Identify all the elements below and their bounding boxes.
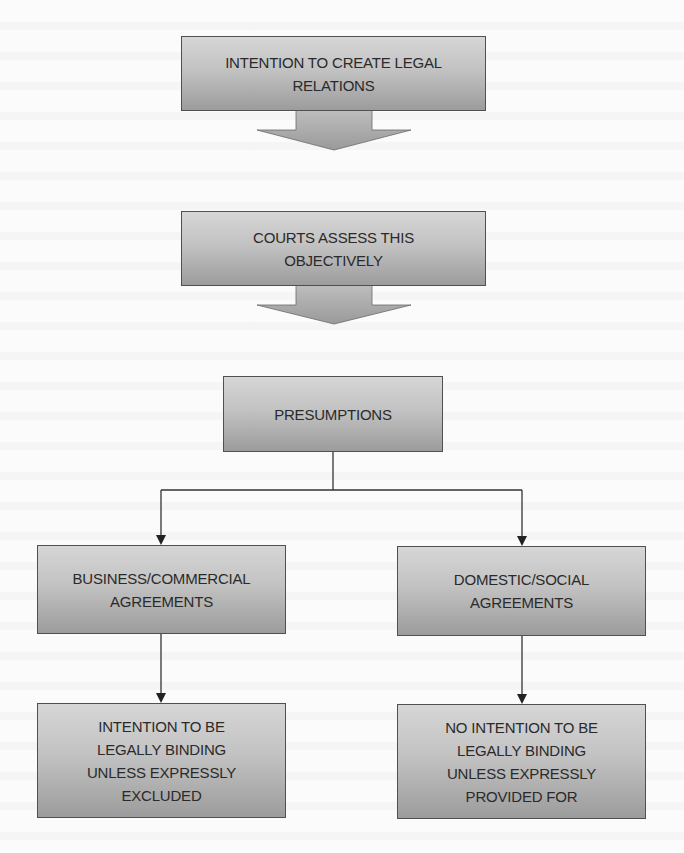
node-no-intention-legally-binding: NO INTENTION TO BE LEGALLY BINDING UNLES… — [397, 704, 646, 819]
node-business-commercial-agreements: BUSINESS/COMMERCIAL AGREEMENTS — [37, 545, 286, 634]
node-label: BUSINESS/COMMERCIAL AGREEMENTS — [73, 567, 251, 613]
node-label: DOMESTIC/SOCIAL AGREEMENTS — [454, 568, 589, 614]
node-label: PRESUMPTIONS — [274, 403, 392, 426]
node-label: NO INTENTION TO BE LEGALLY BINDING UNLES… — [445, 716, 598, 808]
block-arrow-down-icon — [257, 110, 411, 150]
branch-connector — [161, 452, 522, 537]
node-intention-to-create-legal-relations: INTENTION TO CREATE LEGAL RELATIONS — [181, 36, 486, 111]
node-label: INTENTION TO CREATE LEGAL RELATIONS — [225, 51, 442, 97]
node-label: INTENTION TO BE LEGALLY BINDING UNLESS E… — [87, 715, 236, 807]
arrowhead-down-icon — [156, 535, 166, 545]
node-domestic-social-agreements: DOMESTIC/SOCIAL AGREEMENTS — [397, 546, 646, 636]
node-courts-assess-objectively: COURTS ASSESS THIS OBJECTIVELY — [181, 211, 486, 286]
node-label: COURTS ASSESS THIS OBJECTIVELY — [253, 226, 414, 272]
arrowhead-down-icon — [517, 536, 527, 546]
node-presumptions: PRESUMPTIONS — [223, 376, 443, 452]
arrowhead-down-icon — [156, 693, 166, 703]
flowchart-canvas: INTENTION TO CREATE LEGAL RELATIONS COUR… — [0, 0, 684, 853]
arrowhead-down-icon — [517, 694, 527, 704]
block-arrow-down-icon — [257, 285, 411, 324]
node-intention-legally-binding: INTENTION TO BE LEGALLY BINDING UNLESS E… — [37, 703, 286, 818]
